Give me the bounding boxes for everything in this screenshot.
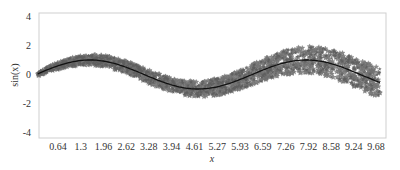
y-tick-label: -4 <box>23 127 31 138</box>
x-tick-label: 4.61 <box>186 141 204 152</box>
x-tick-label: 7.92 <box>300 141 318 152</box>
x-tick-label: 6.59 <box>254 141 272 152</box>
x-tick-label: 3.28 <box>140 141 158 152</box>
x-tick-label: 9.68 <box>367 141 385 152</box>
x-tick-label: 7.26 <box>277 141 295 152</box>
y-tick-label: 0 <box>26 69 31 80</box>
x-tick-label: 3.94 <box>163 141 181 152</box>
chart: 420-2-4 0.641.31.962.623.283.944.615.275… <box>0 0 400 170</box>
y-axis-label: sin(x) <box>9 63 21 86</box>
y-tick-label: -2 <box>23 98 31 109</box>
x-tick-label: 8.58 <box>322 141 340 152</box>
x-tick-label: 0.64 <box>49 141 67 152</box>
x-axis-ticks: 0.641.31.962.623.283.944.615.275.936.597… <box>49 141 384 152</box>
x-tick-label: 5.93 <box>231 141 249 152</box>
x-tick-label: 5.27 <box>209 141 227 152</box>
x-tick-label: 2.62 <box>117 141 135 152</box>
y-tick-label: 4 <box>26 11 31 22</box>
plot-frame <box>39 13 386 138</box>
y-tick-label: 2 <box>26 40 31 51</box>
x-tick-label: 1.96 <box>95 141 113 152</box>
y-axis-ticks: 420-2-4 <box>23 11 31 138</box>
x-axis-label: x <box>209 153 215 164</box>
x-tick-label: 1.3 <box>74 141 87 152</box>
x-tick-label: 9.24 <box>345 141 363 152</box>
